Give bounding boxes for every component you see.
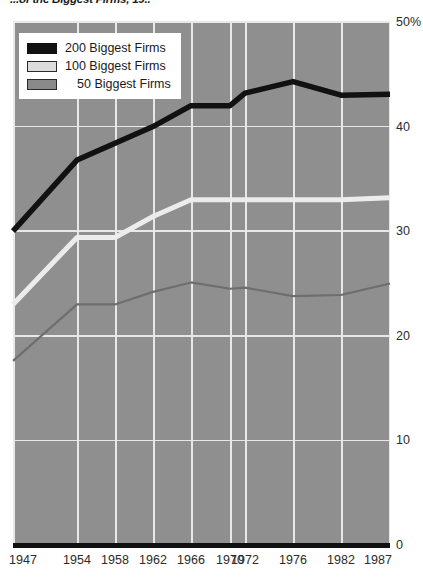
y-axis-tick-label: 10 (396, 433, 410, 447)
legend-swatch-icon (27, 43, 57, 54)
x-axis-tick-label: 1982 (327, 553, 355, 567)
x-axis-tick-label: 1987 (364, 553, 392, 567)
x-axis-tick-label: 1976 (279, 553, 307, 567)
legend-item-200-biggest-firms: 200 Biggest Firms (27, 39, 171, 57)
y-axis-tick-label: 50% (396, 15, 421, 29)
legend-item-label: 200 Biggest Firms (65, 41, 166, 55)
legend-item-100-biggest-firms: 100 Biggest Firms (27, 57, 171, 75)
x-axis-tick-label: 1972 (231, 553, 259, 567)
series-layer (13, 22, 390, 545)
legend-item-50-biggest-firms: 50 Biggest Firms (27, 75, 171, 93)
series-line (13, 82, 390, 232)
x-axis-tick-label: 1962 (139, 553, 167, 567)
legend-swatch-icon (27, 61, 57, 72)
y-axis-tick-label: 30 (396, 224, 410, 238)
legend-item-label: 50 Biggest Firms (65, 77, 171, 91)
y-axis-tick-label: 40 (396, 120, 410, 134)
series-line (13, 198, 390, 305)
chart-root: ...of the Biggest Firms, 19.. 0102030405… (0, 0, 423, 582)
legend-item-label: 100 Biggest Firms (65, 59, 166, 73)
y-axis-tick-label: 20 (396, 329, 410, 343)
chart-legend: 200 Biggest Firms 100 Biggest Firms 50 B… (19, 33, 181, 99)
legend-swatch-icon (27, 79, 57, 90)
x-axis-tick-label: 1966 (177, 553, 205, 567)
x-axis-tick-label: 1958 (101, 553, 129, 567)
x-axis-baseline (13, 543, 390, 548)
x-axis-tick-label: 1954 (63, 553, 91, 567)
y-axis-tick-label: 0 (396, 538, 403, 552)
series-line (13, 282, 390, 360)
x-axis-tick-label: 1947 (9, 553, 37, 567)
chart-title: ...of the Biggest Firms, 19.. (10, 0, 151, 5)
